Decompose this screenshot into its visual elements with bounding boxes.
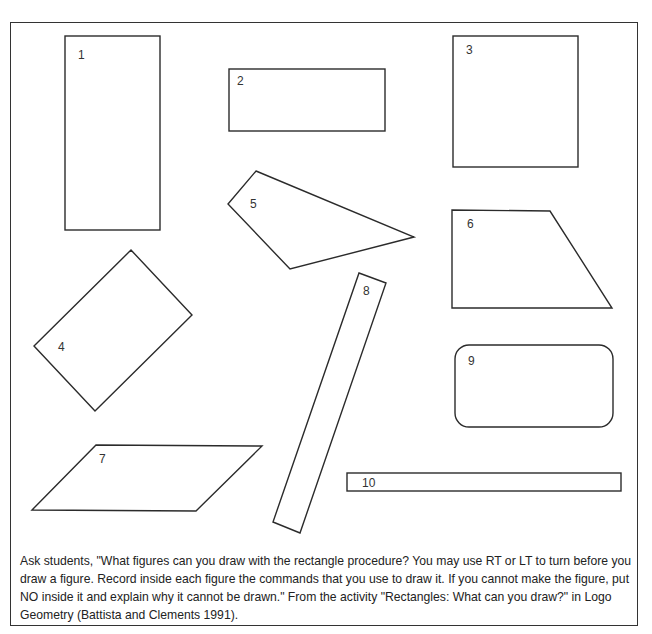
figure-10-label: 10 [362,476,376,490]
figure-9-rounded-rectangle: 9 [455,345,613,427]
figure-5-quadrilateral: 5 [228,171,414,269]
figure-4-rotated-rectangle: 4 [34,250,192,411]
figure-10-thin-rectangle: 10 [347,473,621,491]
figure-7-label: 7 [99,452,106,466]
figure-2-rectangle: 2 [229,69,385,131]
caption-text: Ask students, "What figures can you draw… [20,552,632,624]
figure-8-rotated-rectangle: 8 [273,273,386,533]
figure-3-label: 3 [466,43,473,57]
figure-4-label: 4 [58,340,65,354]
figure-8-label: 8 [363,284,370,298]
figure-3-square: 3 [453,36,578,167]
figure-1-rectangle: 1 [65,36,160,230]
figure-1-label: 1 [78,48,85,62]
figure-6-trapezoid: 6 [452,210,612,308]
figures-canvas: 1 2 3 4 5 6 7 8 9 10 [0,0,652,634]
figure-7-parallelogram: 7 [32,445,262,511]
figure-6-label: 6 [467,217,474,231]
figure-2-label: 2 [237,74,244,88]
figure-9-label: 9 [468,354,475,368]
figure-5-label: 5 [250,197,257,211]
